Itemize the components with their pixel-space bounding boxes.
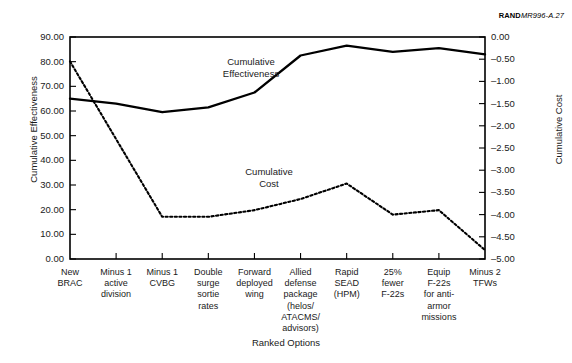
x-category-label-line: advisors) <box>278 323 324 334</box>
x-category-label-line: division <box>93 289 139 300</box>
right-tick-label: –3.50 <box>491 186 535 197</box>
x-category-label-line: armor <box>416 301 462 312</box>
x-category-label: NewBRAC <box>47 267 93 289</box>
x-category-label: Forwarddeployedwing <box>231 267 277 301</box>
x-category-label-line: SEAD <box>324 278 370 289</box>
x-category-label-line: CVBG <box>139 278 185 289</box>
x-category-label: Minus 1activedivision <box>93 267 139 301</box>
right-tick-label: –5.00 <box>491 253 535 264</box>
x-category-label-line: TFWs <box>462 278 508 289</box>
x-category-label: Doublesurgesortierates <box>185 267 231 312</box>
x-category-label-line: Minus 1 <box>139 267 185 278</box>
x-category-label-line: 25% <box>370 267 416 278</box>
right-tick-label: 0.00 <box>491 31 535 42</box>
right-tick-label: –1.00 <box>491 75 535 86</box>
x-category-label-line: Minus 2 <box>462 267 508 278</box>
right-axis-title: Cumulative Cost <box>553 50 564 210</box>
x-category-label-line: defense <box>278 278 324 289</box>
annotation-line: Cumulative <box>224 166 314 178</box>
x-category-label-line: ATACMS/ <box>278 312 324 323</box>
x-category-label-line: Double <box>185 267 231 278</box>
x-category-label-line: surge <box>185 278 231 289</box>
figure-container: RANDMR996-A.27 0.0010.0020.0030.0040.005… <box>0 0 572 363</box>
right-axis-ticks <box>479 37 485 259</box>
x-category-label-line: active <box>93 278 139 289</box>
x-category-label-line: sortie <box>185 289 231 300</box>
x-category-label-line: wing <box>231 289 277 300</box>
x-category-label: RapidSEAD(HPM) <box>324 267 370 301</box>
x-category-label-line: F-22s <box>416 278 462 289</box>
x-axis-title: Ranked Options <box>0 337 572 348</box>
left-tick-label: 10.00 <box>20 228 64 239</box>
right-tick-label: –2.50 <box>491 142 535 153</box>
x-category-label: 25%fewerF-22s <box>370 267 416 301</box>
x-category-label-line: for anti- <box>416 289 462 300</box>
x-category-label-line: deployed <box>231 278 277 289</box>
right-tick-label: –2.00 <box>491 120 535 131</box>
left-tick-label: 90.00 <box>20 31 64 42</box>
right-tick-label: –0.50 <box>491 53 535 64</box>
left-axis-title: Cumulative Effectiveness <box>28 50 39 210</box>
x-category-label: Allieddefensepackage(helos/ATACMS/adviso… <box>278 267 324 334</box>
x-category-label-line: package <box>278 289 324 300</box>
x-category-label-line: BRAC <box>47 278 93 289</box>
series-annotation-effectiveness: CumulativeEffectiveness <box>196 56 306 79</box>
right-tick-label: –3.00 <box>491 164 535 175</box>
x-category-label: EquipF-22sfor anti-armormissions <box>416 267 462 323</box>
series-line-cumulative-cost <box>70 61 485 250</box>
annotation-line: Cost <box>224 178 314 190</box>
x-category-label-line: Allied <box>278 267 324 278</box>
right-tick-label: –1.50 <box>491 98 535 109</box>
x-category-label-line: missions <box>416 312 462 323</box>
x-category-label-line: F-22s <box>370 289 416 300</box>
series-annotation-cost: CumulativeCost <box>224 166 314 189</box>
x-category-label-line: (HPM) <box>324 289 370 300</box>
x-category-label-line: rates <box>185 301 231 312</box>
x-category-label-line: Forward <box>231 267 277 278</box>
right-tick-label: –4.50 <box>491 231 535 242</box>
right-tick-label: –4.00 <box>491 209 535 220</box>
x-category-label-line: New <box>47 267 93 278</box>
x-category-label-line: Rapid <box>324 267 370 278</box>
x-category-label: Minus 1CVBG <box>139 267 185 289</box>
x-category-label: Minus 2TFWs <box>462 267 508 289</box>
annotation-line: Cumulative <box>196 56 306 68</box>
annotation-line: Effectiveness <box>196 68 306 80</box>
x-category-label-line: Minus 1 <box>93 267 139 278</box>
x-category-label-line: (helos/ <box>278 301 324 312</box>
x-category-label-line: fewer <box>370 278 416 289</box>
x-axis-ticks <box>116 253 439 259</box>
x-category-label-line: Equip <box>416 267 462 278</box>
left-tick-label: 0.00 <box>20 253 64 264</box>
